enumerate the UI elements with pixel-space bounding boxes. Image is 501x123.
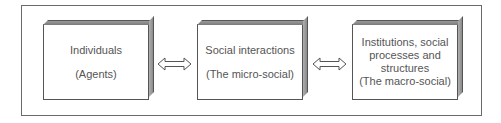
- box-top-face: [197, 20, 308, 25]
- box-subtitle: (The macro-social): [359, 75, 451, 88]
- box-line: processes and: [369, 49, 441, 62]
- box-subtitle: (The micro-social): [206, 68, 294, 81]
- box-subtitle: (Agents): [75, 68, 117, 81]
- box-side-face: [149, 16, 154, 97]
- box-social-interactions: Social interactions (The micro-social): [197, 24, 303, 100]
- box-top-face: [43, 20, 154, 25]
- box-top-face: [352, 20, 463, 25]
- box-line: structures: [381, 62, 429, 75]
- box-line: Institutions, social: [362, 36, 449, 49]
- box-title: Individuals: [70, 44, 122, 57]
- box-institutions: Institutions, social processes and struc…: [352, 24, 458, 100]
- box-individuals: Individuals (Agents): [43, 24, 149, 100]
- double-arrow-icon: [312, 57, 348, 71]
- box-side-face: [458, 16, 463, 97]
- box-side-face: [303, 16, 308, 97]
- box-title: Social interactions: [205, 44, 294, 57]
- double-arrow-icon: [157, 57, 193, 71]
